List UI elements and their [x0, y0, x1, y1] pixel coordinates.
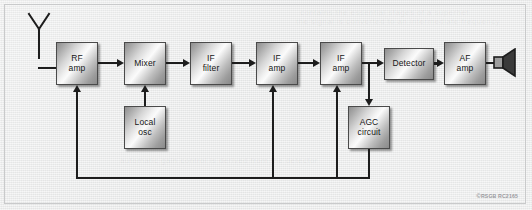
block-if-amp-1[interactable]: IF amp	[256, 42, 298, 85]
arrow-detector-to-af-amp	[437, 59, 444, 67]
block-local-osc[interactable]: Local osc	[124, 106, 166, 149]
wire-local-osc-to-mixer	[144, 92, 146, 106]
block-rf-amp[interactable]: RF amp	[56, 42, 98, 85]
copyright-text: RSGB RC2165	[481, 193, 518, 199]
block-if-amp-2-label: IF amp	[333, 54, 350, 72]
block-detector[interactable]: Detector	[384, 48, 434, 80]
block-if-amp-2[interactable]: IF amp	[320, 42, 362, 85]
ghost-text-line-3: automatic gain control is derived from t…	[120, 156, 318, 165]
copyright-notice: ©RSGB RC2165	[476, 192, 518, 199]
wire-antenna-to-rf-amp	[38, 67, 56, 69]
arrow-agc-to-if-amp-2	[333, 85, 341, 92]
arrow-if-filter-to-if-amp-1	[249, 59, 256, 67]
arrow-agc-to-if-amp-1	[269, 85, 277, 92]
arrow-agc-to-rf-amp	[73, 85, 81, 92]
ghost-text-line-1: contains the essential stages of a super…	[300, 8, 469, 17]
wire-mixer-to-if-filter	[166, 62, 183, 64]
wire-if-amp-1-to-if-amp-2	[298, 62, 313, 64]
block-local-osc-label: Local osc	[135, 118, 156, 136]
block-agc-circuit-label: AGC circuit	[358, 118, 381, 136]
wire-agc-riser-rf-amp	[76, 92, 78, 179]
wire-agc-bus	[76, 177, 370, 179]
arrow-agc-tap-to-agc-circuit	[365, 99, 373, 106]
wire-agc-riser-if-amp-1	[272, 92, 274, 179]
ghost-text-line-2: the signal is converted to an intermedia…	[296, 17, 500, 26]
block-rf-amp-label: RF amp	[69, 54, 86, 72]
arrow-if-amp-1-to-if-amp-2	[313, 59, 320, 67]
block-mixer-label: Mixer	[134, 59, 155, 68]
wire-agc-riser-if-amp-2	[336, 92, 338, 179]
block-agc-circuit[interactable]: AGC circuit	[348, 106, 390, 149]
arrow-rf-amp-to-mixer	[117, 59, 124, 67]
figure-canvas: contains the essential stages of a super…	[0, 0, 532, 210]
wire-if-filter-to-if-amp-1	[232, 62, 249, 64]
arrow-local-osc-to-mixer	[141, 85, 149, 92]
block-af-amp-label: AF amp	[457, 54, 474, 72]
wire-rf-amp-to-mixer	[98, 62, 117, 64]
arrow-if-amp-2-to-detector	[377, 59, 384, 67]
block-if-amp-1-label: IF amp	[269, 54, 286, 72]
wire-agc-tap-down	[368, 62, 370, 99]
speaker-icon	[493, 48, 523, 82]
block-detector-label: Detector	[393, 59, 426, 68]
block-if-filter-label: IF filter	[203, 54, 220, 72]
antenna-icon	[26, 12, 56, 64]
block-af-amp[interactable]: AF amp	[444, 42, 486, 85]
block-if-filter[interactable]: IF filter	[190, 42, 232, 85]
block-mixer[interactable]: Mixer	[124, 42, 166, 85]
arrow-mixer-to-if-filter	[183, 59, 190, 67]
wire-agc-circuit-to-bus	[368, 149, 370, 179]
